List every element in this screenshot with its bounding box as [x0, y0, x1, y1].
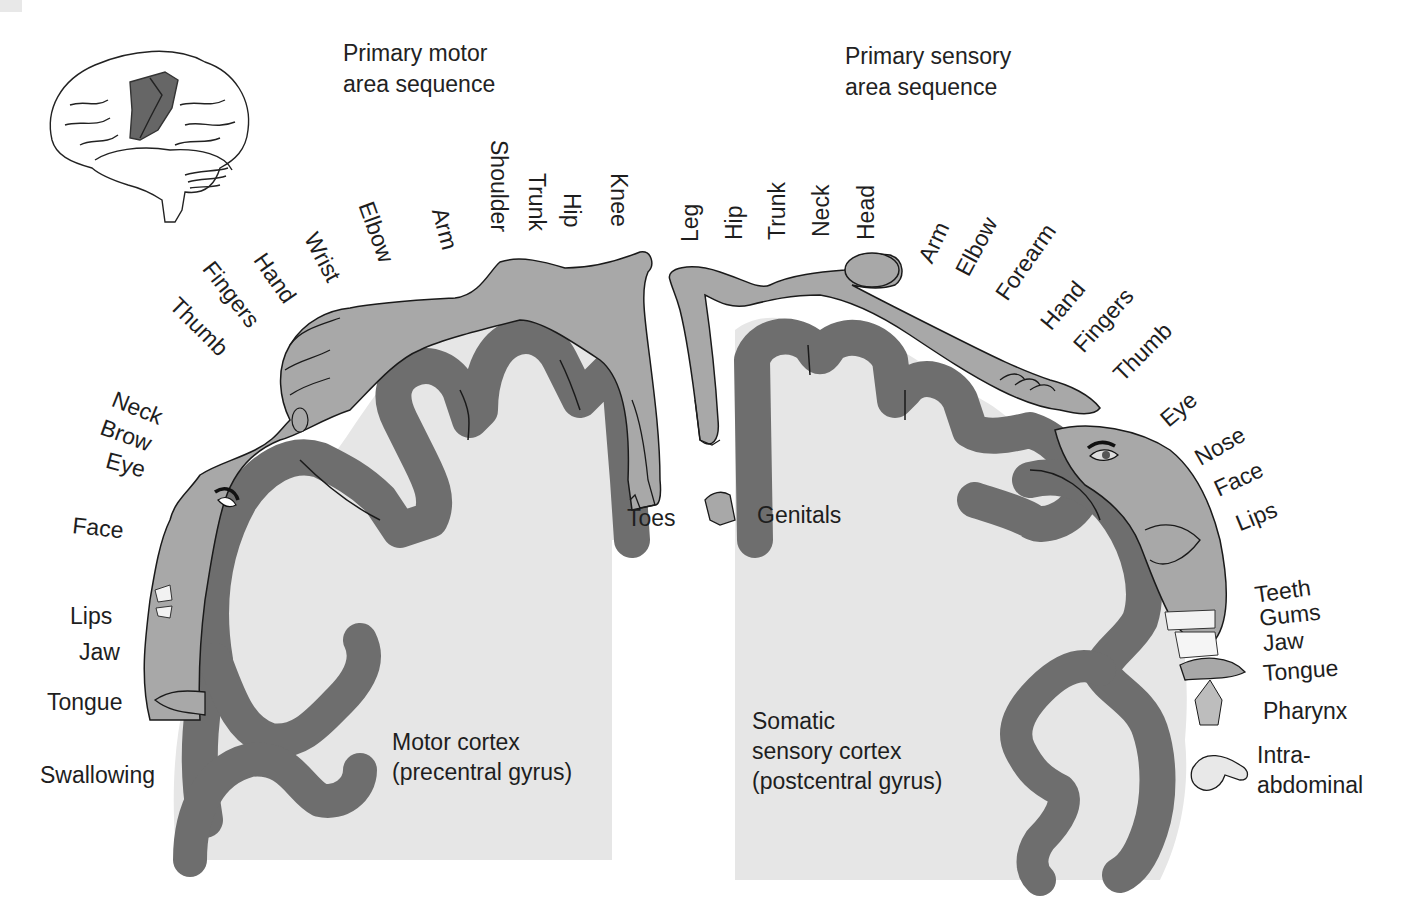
inset-brain-icon	[50, 51, 248, 222]
homunculus-diagram: Primary motor area sequence Primary sens…	[0, 0, 1425, 913]
sensory-heading-line1: Primary sensory	[845, 41, 1011, 72]
sensory-heading-line2: area sequence	[845, 72, 1011, 103]
motor-cortex-label-line1: Motor cortex	[392, 727, 572, 757]
sensory-cortex-label-line3: (postcentral gyrus)	[752, 766, 942, 796]
sensory-heading: Primary sensory area sequence	[845, 41, 1011, 103]
motor-label-tongue: Tongue	[47, 689, 122, 715]
motor-cortex-label-line2: (precentral gyrus)	[392, 757, 572, 787]
motor-label-face: Face	[71, 512, 125, 543]
motor-label-shoulder: Shoulder	[486, 140, 512, 232]
sensory-label-genitals: Genitals	[757, 502, 841, 528]
sensory-label-neck: Neck	[808, 185, 834, 237]
sensory-label-tongue: Tongue	[1262, 655, 1339, 686]
sensory-cortex-label-line2: sensory cortex	[752, 736, 942, 766]
motor-label-hip: Hip	[559, 193, 585, 228]
sensory-label-abdominal: abdominal	[1257, 770, 1363, 800]
sensory-cortex-label-line1: Somatic	[752, 706, 942, 736]
motor-heading: Primary motor area sequence	[343, 38, 495, 100]
sensory-cortex-label: Somatic sensory cortex (postcentral gyru…	[752, 706, 942, 796]
motor-heading-line2: area sequence	[343, 69, 495, 100]
motor-label-jaw: Jaw	[79, 639, 120, 665]
sensory-label-hip: Hip	[721, 205, 747, 240]
sensory-label-trunk: Trunk	[764, 182, 790, 240]
sensory-label-leg: Leg	[677, 204, 703, 242]
motor-label-lips: Lips	[70, 603, 112, 629]
motor-label-trunk: Trunk	[524, 173, 550, 231]
motor-label-swallowing: Swallowing	[40, 762, 155, 788]
sensory-label-intra-abdominal: Intra- abdominal	[1257, 740, 1363, 800]
sensory-label-intra: Intra-	[1257, 740, 1363, 770]
motor-label-toes: Toes	[627, 505, 676, 531]
sensory-label-jaw: Jaw	[1262, 627, 1305, 656]
motor-heading-line1: Primary motor	[343, 38, 495, 69]
motor-cortex-label: Motor cortex (precentral gyrus)	[392, 727, 572, 787]
sensory-label-head: Head	[853, 185, 879, 240]
motor-label-knee: Knee	[606, 173, 632, 227]
sensory-label-pharynx: Pharynx	[1263, 698, 1347, 724]
